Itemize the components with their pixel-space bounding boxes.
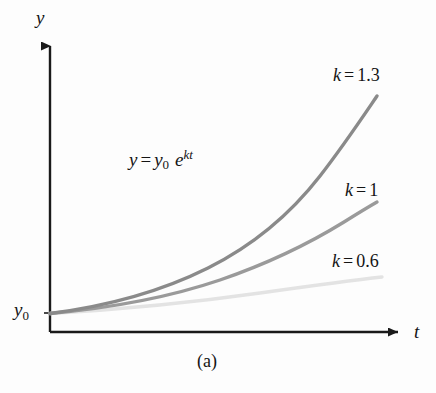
curve-label-equals: = bbox=[343, 251, 353, 271]
figure-caption: (a) bbox=[197, 352, 217, 370]
curve-label-equals: = bbox=[356, 180, 366, 200]
curve-k-1 bbox=[50, 202, 377, 314]
curve-label-k-symbol: k bbox=[345, 180, 353, 200]
y-axis-label: y bbox=[36, 8, 44, 27]
curve-label-k-0-6: k=0.6 bbox=[332, 252, 379, 270]
y-intercept-label: y0 bbox=[14, 300, 29, 322]
figure-container: y t y0 y=y0ekt k=1.3 k=1 k=0.6 (a) bbox=[0, 0, 436, 393]
equation-rhs-exponent: kt bbox=[184, 147, 193, 162]
curve-label-value: 1.3 bbox=[357, 65, 380, 85]
equation-equals: = bbox=[140, 149, 151, 170]
equation-rhs-subscript: 0 bbox=[163, 157, 170, 172]
equation-rhs-e: e bbox=[175, 149, 183, 170]
curve-label-value: 0.6 bbox=[356, 251, 379, 271]
y-intercept-subscript: 0 bbox=[22, 308, 29, 323]
curve-label-equals: = bbox=[344, 65, 354, 85]
curve-label-k-1: k=1 bbox=[345, 181, 378, 199]
curve-label-value: 1 bbox=[369, 180, 378, 200]
curve-label-k-symbol: k bbox=[332, 251, 340, 271]
curve-label-k-symbol: k bbox=[333, 65, 341, 85]
t-axis-label: t bbox=[414, 322, 419, 341]
equation-annotation: y=y0ekt bbox=[129, 148, 193, 171]
equation-rhs-base: y bbox=[154, 149, 162, 170]
equation-lhs: y bbox=[129, 149, 137, 170]
curve-label-k-1-3: k=1.3 bbox=[333, 66, 380, 84]
